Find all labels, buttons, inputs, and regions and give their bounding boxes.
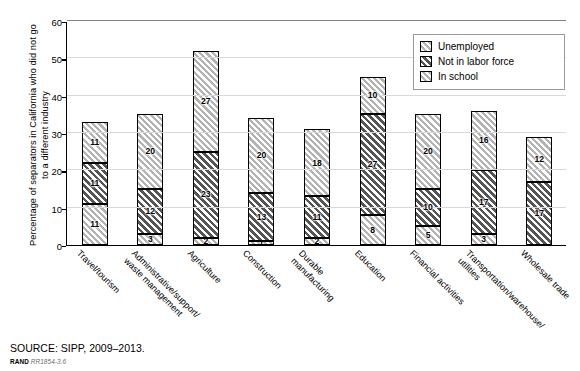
gridline-60 bbox=[67, 20, 566, 21]
bar-segment[interactable]: 13 bbox=[248, 193, 274, 242]
y-tick-mark-30 bbox=[62, 134, 66, 135]
bar-value-label: 1 bbox=[259, 241, 264, 245]
legend-item[interactable]: Unemployed bbox=[420, 39, 558, 54]
bar-segment[interactable]: 17 bbox=[471, 170, 497, 233]
legend-item[interactable]: Not in labor force bbox=[420, 54, 558, 69]
bar-segment[interactable]: 11 bbox=[82, 122, 108, 163]
bar-segment[interactable]: 2 bbox=[193, 238, 219, 245]
legend-label: In school bbox=[438, 71, 478, 82]
gridline-40 bbox=[67, 95, 566, 96]
y-tick-label-0: 0 bbox=[40, 241, 62, 252]
y-tick-label-10: 10 bbox=[40, 203, 62, 214]
bar-segment[interactable]: 12 bbox=[137, 189, 163, 234]
y-tick-label-20: 20 bbox=[40, 166, 62, 177]
bar-value-label: 2 bbox=[315, 238, 320, 245]
legend-swatch-icon bbox=[420, 41, 432, 52]
bar-value-label: 17 bbox=[479, 198, 489, 207]
x-axis-label: Durable manufacturing bbox=[288, 248, 344, 304]
bar-group[interactable]: 11320 bbox=[248, 118, 274, 245]
bar-segment[interactable]: 11 bbox=[304, 196, 330, 237]
x-axis-label: Travel/tourism bbox=[74, 248, 122, 296]
bar-group[interactable]: 51020 bbox=[415, 114, 441, 245]
y-axis-title-wrapper: Percentage of separators in California w… bbox=[6, 20, 34, 250]
bar-value-label: 10 bbox=[368, 91, 378, 100]
y-tick-label-30: 30 bbox=[40, 129, 62, 140]
rand-reference-line: RAND RR1854-3.6 bbox=[10, 358, 66, 365]
source-note: SOURCE: SIPP, 2009–2013. bbox=[10, 342, 145, 354]
x-axis-category-labels: Travel/tourismAdministrative/support/ wa… bbox=[66, 248, 566, 344]
bar-value-label: 10 bbox=[423, 203, 433, 212]
y-axis-tick-labels: 0102030405060 bbox=[36, 22, 62, 246]
bar-segment[interactable]: 18 bbox=[304, 129, 330, 196]
bar-segment[interactable]: 8 bbox=[360, 215, 386, 245]
bar-value-label: 3 bbox=[148, 235, 153, 244]
y-tick-mark-60 bbox=[62, 22, 66, 23]
x-axis-label: Construction bbox=[241, 248, 285, 292]
bar-group[interactable]: 31716 bbox=[471, 111, 497, 245]
bar-value-label: 12 bbox=[534, 155, 544, 164]
legend-swatch-icon bbox=[420, 56, 432, 67]
bar-segment[interactable]: 10 bbox=[360, 77, 386, 114]
bar-segment[interactable]: 16 bbox=[471, 111, 497, 171]
bar-group[interactable]: 01712 bbox=[526, 137, 552, 245]
bar-value-label: 5 bbox=[426, 231, 431, 240]
bar-value-label: 11 bbox=[90, 138, 99, 147]
gridline-20 bbox=[67, 169, 566, 170]
bar-group[interactable]: 22327 bbox=[193, 51, 219, 245]
bar-value-label: 17 bbox=[534, 209, 544, 218]
y-tick-label-50: 50 bbox=[40, 54, 62, 65]
legend-item[interactable]: In school bbox=[420, 69, 558, 84]
rand-report-number: RR1854-3.6 bbox=[31, 358, 66, 365]
bar-segment[interactable]: 2 bbox=[304, 238, 330, 245]
bar-segment[interactable]: 3 bbox=[137, 234, 163, 245]
bar-value-label: 20 bbox=[423, 147, 433, 156]
x-axis-label: Agriculture bbox=[185, 248, 223, 286]
bar-segment[interactable]: 20 bbox=[415, 114, 441, 189]
y-tick-mark-40 bbox=[62, 97, 66, 98]
bar-segment[interactable]: 20 bbox=[248, 118, 274, 193]
y-tick-label-40: 40 bbox=[40, 91, 62, 102]
bar-value-label: 11 bbox=[312, 213, 321, 222]
rand-brand: RAND bbox=[10, 358, 29, 365]
legend-label: Not in labor force bbox=[438, 56, 514, 67]
bar-segment[interactable]: 23 bbox=[193, 152, 219, 238]
bar-segment[interactable]: 20 bbox=[137, 114, 163, 189]
bar-value-label: 23 bbox=[201, 190, 211, 199]
legend-swatch-icon bbox=[420, 71, 432, 82]
bar-segment[interactable]: 10 bbox=[415, 189, 441, 226]
bar-group[interactable]: 111111 bbox=[82, 122, 108, 245]
bar-value-label: 12 bbox=[146, 207, 156, 216]
legend-label: Unemployed bbox=[438, 41, 494, 52]
bar-value-label: 3 bbox=[481, 235, 486, 244]
bar-value-label: 11 bbox=[90, 220, 99, 229]
x-axis-label: Education bbox=[352, 248, 388, 284]
bar-value-label: 8 bbox=[370, 226, 375, 235]
x-axis-label: Financial activities bbox=[407, 248, 466, 307]
bar-group[interactable]: 82710 bbox=[360, 77, 386, 245]
bar-segment[interactable]: 11 bbox=[82, 204, 108, 245]
bar-segment[interactable]: 12 bbox=[526, 137, 552, 182]
bar-value-label: 13 bbox=[257, 213, 267, 222]
bar-segment[interactable]: 27 bbox=[193, 51, 219, 152]
bar-segment[interactable]: 17 bbox=[526, 182, 552, 245]
y-tick-mark-20 bbox=[62, 171, 66, 172]
bar-value-label: 27 bbox=[368, 160, 378, 169]
gridline-30 bbox=[67, 132, 566, 133]
bar-segment[interactable]: 1 bbox=[248, 241, 274, 245]
bar-group[interactable]: 31220 bbox=[137, 114, 163, 245]
y-tick-mark-50 bbox=[62, 59, 66, 60]
bar-value-label: 27 bbox=[201, 97, 211, 106]
y-tick-label-60: 60 bbox=[40, 17, 62, 28]
bar-segment[interactable]: 27 bbox=[360, 114, 386, 215]
bar-value-label: 20 bbox=[257, 151, 267, 160]
y-tick-mark-0 bbox=[62, 246, 66, 247]
x-axis-label: Wholesale trade bbox=[518, 248, 572, 302]
bar-group[interactable]: 21118 bbox=[304, 129, 330, 245]
bar-segment[interactable]: 3 bbox=[471, 234, 497, 245]
figure-stacked-bar-chart: Percentage of separators in California w… bbox=[0, 0, 580, 371]
bar-value-label: 18 bbox=[312, 159, 322, 168]
bar-segment[interactable]: 5 bbox=[415, 226, 441, 245]
bar-value-label: 16 bbox=[479, 136, 489, 145]
y-tick-mark-10 bbox=[62, 209, 66, 210]
legend: UnemployedNot in labor forceIn school bbox=[413, 34, 565, 90]
